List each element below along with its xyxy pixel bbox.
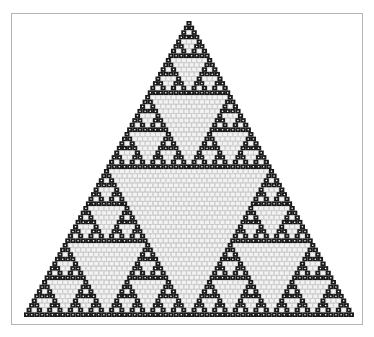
sierpinski-triangle (0, 0, 374, 337)
